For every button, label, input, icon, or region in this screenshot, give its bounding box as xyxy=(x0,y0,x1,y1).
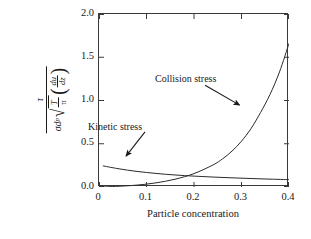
deriv-denominator-dz: dz xyxy=(59,78,68,86)
d-symbol: d xyxy=(53,122,64,127)
plot-area xyxy=(98,13,288,186)
chart-figure: τ σdp √ T π xyxy=(0,0,311,239)
paren-open: ( xyxy=(50,89,67,95)
y-tick-label: 2.0 xyxy=(60,8,94,19)
t-over-pi-fraction: T π xyxy=(50,98,69,108)
sqrt-numerator-T: T xyxy=(50,101,59,106)
x-tick-label: 0.1 xyxy=(131,192,161,203)
annotation-collision-stress: Collision stress xyxy=(155,74,216,84)
y-axis-formula-fraction: τ σdp √ T π xyxy=(35,66,68,133)
y-axis-numerator-tau: τ xyxy=(35,96,46,104)
paren-close: ) xyxy=(50,68,67,74)
plot-curves-svg xyxy=(99,14,289,187)
d-subscript-p: p xyxy=(55,118,62,122)
curve-collision-stress xyxy=(99,43,289,187)
fraction-bar xyxy=(46,66,47,133)
deriv-fraction-bar xyxy=(58,76,59,88)
y-axis-tick-labels: 0.00.51.01.52.0 xyxy=(56,0,94,239)
sqrt-sign-icon: √ xyxy=(45,109,71,117)
sqrt-group: √ T π xyxy=(48,96,69,117)
sigma-symbol: σ xyxy=(53,127,64,132)
y-tick-label: 0.0 xyxy=(60,181,94,192)
x-axis-label: Particle concentration xyxy=(98,208,288,219)
sqrt-denominator-pi: π xyxy=(60,101,69,105)
y-tick-label: 1.0 xyxy=(60,94,94,105)
y-tick-label: 0.5 xyxy=(60,137,94,148)
y-tick-label: 1.5 xyxy=(60,51,94,62)
x-tick-label: 0.2 xyxy=(178,192,208,203)
axis-ticks xyxy=(99,14,289,187)
sqrt-fraction-bar xyxy=(59,98,60,108)
du-dz-fraction: du dz xyxy=(49,75,68,89)
x-tick-label: 0.3 xyxy=(226,192,256,203)
derivative-group: ( du dz ) xyxy=(49,68,68,95)
sqrt-radicand: T π xyxy=(48,96,69,109)
y-axis-label: τ σdp √ T π xyxy=(4,0,100,200)
annotation-kinetic-stress: Kinetic stress xyxy=(88,122,142,132)
x-tick-label: 0 xyxy=(83,192,113,203)
x-tick-label: 0.4 xyxy=(273,192,303,203)
y-axis-denominator: σdp √ T π ( xyxy=(47,66,69,133)
y-axis-label-formula: τ σdp √ T π xyxy=(35,66,68,133)
deriv-numerator-du: du xyxy=(49,77,58,86)
